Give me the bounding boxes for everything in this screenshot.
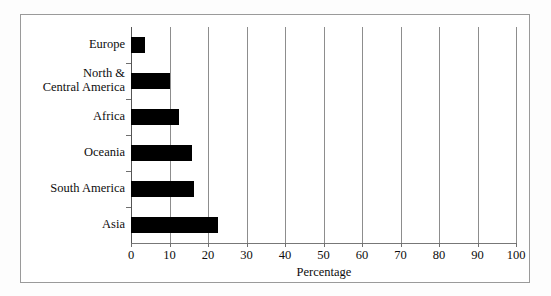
x-tick-mark-50 <box>324 243 325 247</box>
bar-row <box>131 207 516 243</box>
category-label: Oceania <box>0 145 125 159</box>
category-label: North & Central America <box>0 66 125 94</box>
x-tick-label-60: 60 <box>356 248 369 263</box>
bar <box>131 37 145 53</box>
x-tick-mark-10 <box>170 243 171 247</box>
x-tick-mark-90 <box>478 243 479 247</box>
x-tick-label-30: 30 <box>240 248 253 263</box>
x-tick-label-80: 80 <box>433 248 446 263</box>
x-tick-mark-70 <box>401 243 402 247</box>
bar <box>131 109 179 125</box>
y-tick <box>126 171 131 172</box>
bar <box>131 73 170 89</box>
x-axis-title: Percentage <box>131 265 517 280</box>
x-tick-label-10: 10 <box>163 248 176 263</box>
x-tick-mark-0 <box>131 243 132 247</box>
x-tick-mark-80 <box>439 243 440 247</box>
x-tick-mark-40 <box>285 243 286 247</box>
bar-row <box>131 27 516 63</box>
chart-figure: EuropeNorth & Central AmericaAfricaOcean… <box>0 0 551 296</box>
category-label: Africa <box>0 109 125 123</box>
x-tick-label-70: 70 <box>394 248 407 263</box>
x-tick-label-100: 100 <box>507 248 526 263</box>
y-tick <box>126 135 131 136</box>
bar-row <box>131 135 516 171</box>
gridline-100 <box>516 27 517 243</box>
bar-row <box>131 171 516 207</box>
category-label: South America <box>0 181 125 195</box>
x-tick-mark-60 <box>362 243 363 247</box>
bar <box>131 181 194 197</box>
x-tick-mark-20 <box>208 243 209 247</box>
x-tick-mark-30 <box>247 243 248 247</box>
x-tick-mark-100 <box>516 243 517 247</box>
bar-row <box>131 63 516 99</box>
bar <box>131 217 218 233</box>
y-tick <box>126 207 131 208</box>
y-tick <box>126 63 131 64</box>
x-tick-label-0: 0 <box>128 248 134 263</box>
category-label: Asia <box>0 217 125 231</box>
x-tick-label-90: 90 <box>471 248 484 263</box>
y-tick <box>126 99 131 100</box>
x-tick-label-20: 20 <box>202 248 215 263</box>
x-tick-label-40: 40 <box>279 248 292 263</box>
bar <box>131 145 192 161</box>
bar-row <box>131 99 516 135</box>
x-tick-label-50: 50 <box>317 248 330 263</box>
category-label: Europe <box>0 37 125 51</box>
